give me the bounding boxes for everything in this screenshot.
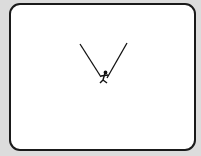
rope-right [107,43,127,78]
rope-left [80,44,101,77]
game-scene [0,0,201,156]
